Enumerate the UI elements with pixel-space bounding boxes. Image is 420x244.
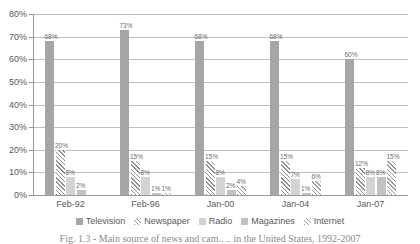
bar-value-label: 20%: [55, 142, 68, 149]
figure-caption: Fig. 1.3 - Main source of news and cam..…: [0, 233, 420, 244]
bar-group: 68%15%7%1%6%Jan-04: [258, 14, 333, 195]
legend-swatch-newspaper-icon: [134, 218, 141, 225]
bar-value-label: 73%: [120, 22, 133, 29]
bar-magazines-jan-00: [227, 190, 236, 195]
bar-value-label: 2%: [226, 182, 235, 189]
bar-television-jan-07: [345, 59, 354, 195]
legend-swatch-radio-icon: [199, 218, 206, 225]
bar-newspaper-feb-96: [131, 161, 140, 195]
y-axis-label: 40%: [9, 101, 27, 110]
bar-television-jan-00: [195, 41, 204, 195]
bar-value-label: 8%: [141, 169, 150, 176]
bar-internet-jan-04: [312, 181, 321, 195]
x-axis-label-feb-96: Feb-96: [108, 200, 183, 209]
bar-value-label: 7%: [291, 171, 300, 178]
bar-radio-jan-07: [366, 177, 375, 195]
bar-television-feb-92: [45, 41, 54, 195]
bar-value-label: 68%: [45, 33, 58, 40]
y-axis-label: 0%: [14, 191, 27, 200]
bar-newspaper-feb-92: [56, 150, 65, 195]
legend-item-internet[interactable]: Internet: [304, 216, 345, 226]
x-axis-label-feb-92: Feb-92: [33, 200, 108, 209]
chart-legend: TelevisionNewspaperRadioMagazinesInterne…: [0, 216, 420, 226]
y-axis-label: 30%: [9, 123, 27, 132]
bar-radio-jan-00: [216, 177, 225, 195]
bar-value-label: 6%: [312, 173, 321, 180]
bar-value-label: 1%: [301, 185, 310, 192]
bar-television-jan-04: [270, 41, 279, 195]
legend-item-magazines[interactable]: Magazines: [241, 216, 295, 226]
bar-value-label: 15%: [387, 153, 400, 160]
bar-value-label: 1%: [162, 185, 171, 192]
bar-newspaper-jan-07: [356, 168, 365, 195]
y-axis-label: 60%: [9, 55, 27, 64]
y-axis-label: 10%: [9, 168, 27, 177]
bar-internet-jan-00: [237, 186, 246, 195]
legend-label: Television: [86, 216, 126, 226]
bar-radio-feb-96: [141, 177, 150, 195]
bar-radio-jan-04: [291, 179, 300, 195]
y-axis-tick: [29, 195, 33, 196]
x-axis-label-jan-07: Jan-07: [333, 200, 408, 209]
y-axis-label: 80%: [9, 10, 27, 19]
legend-label: Magazines: [251, 216, 295, 226]
legend-swatch-television-icon: [76, 218, 83, 225]
x-axis-label-jan-00: Jan-00: [183, 200, 258, 209]
legend-label: Radio: [209, 216, 233, 226]
x-axis-line: [33, 195, 408, 196]
bar-television-feb-96: [120, 30, 129, 195]
bar-group: 68%20%8%2%Feb-92: [33, 14, 108, 195]
bar-internet-jan-07: [387, 161, 396, 195]
bar-group: 60%12%8%8%15%Jan-07: [333, 14, 408, 195]
bar-value-label: 8%: [216, 169, 225, 176]
bar-value-label: 1%: [151, 185, 160, 192]
bar-magazines-jan-07: [377, 177, 386, 195]
bar-radio-feb-92: [66, 177, 75, 195]
bar-magazines-feb-96: [152, 193, 161, 195]
y-axis-label: 20%: [9, 146, 27, 155]
legend-swatch-magazines-icon: [241, 218, 248, 225]
legend-item-television[interactable]: Television: [76, 216, 126, 226]
bar-value-label: 60%: [345, 51, 358, 58]
bar-newspaper-jan-00: [206, 161, 215, 195]
bar-value-label: 15%: [205, 153, 218, 160]
bar-value-label: 68%: [270, 33, 283, 40]
legend-item-radio[interactable]: Radio: [199, 216, 233, 226]
y-axis-label: 50%: [9, 78, 27, 87]
bar-group: 68%15%8%2%4%Jan-00: [183, 14, 258, 195]
y-axis-label: 70%: [9, 33, 27, 42]
bar-value-label: 2%: [76, 182, 85, 189]
bar-value-label: 4%: [237, 178, 246, 185]
bar-value-label: 15%: [130, 153, 143, 160]
bar-value-label: 68%: [195, 33, 208, 40]
bar-magazines-jan-04: [302, 193, 311, 195]
bar-group: 73%15%8%1%1%Feb-96: [108, 14, 183, 195]
legend-swatch-internet-icon: [304, 218, 311, 225]
bar-internet-feb-96: [162, 193, 171, 195]
bar-value-label: 15%: [280, 153, 293, 160]
bar-value-label: 8%: [376, 169, 385, 176]
bar-value-label: 12%: [355, 160, 368, 167]
bar-magazines-feb-92: [77, 190, 86, 195]
bar-value-label: 8%: [366, 169, 375, 176]
bar-value-label: 8%: [66, 169, 75, 176]
plot-area: 0%10%20%30%40%50%60%70%80% 68%20%8%2%Feb…: [33, 14, 408, 196]
legend-label: Newspaper: [144, 216, 190, 226]
bar-newspaper-jan-04: [281, 161, 290, 195]
legend-item-newspaper[interactable]: Newspaper: [134, 216, 190, 226]
legend-label: Internet: [314, 216, 345, 226]
x-axis-label-jan-04: Jan-04: [258, 200, 333, 209]
